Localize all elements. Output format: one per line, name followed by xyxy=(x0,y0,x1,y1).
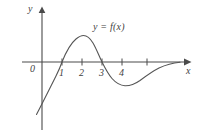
x-axis-label: x xyxy=(186,66,190,76)
x-tick-label-4: 4 xyxy=(119,68,124,78)
y-axis xyxy=(39,7,46,131)
function-graph-figure: y x 0 1 2 3 4 y = f(x) xyxy=(0,0,199,133)
origin-label: 0 xyxy=(30,64,35,74)
x-tick-label-2: 2 xyxy=(79,68,84,78)
x-axis xyxy=(22,59,192,66)
y-axis-label: y xyxy=(28,4,32,14)
y-axis-arrowhead xyxy=(39,7,46,14)
x-tick-label-1: 1 xyxy=(59,68,64,78)
x-tick-label-3: 3 xyxy=(99,68,104,78)
function-label: y = f(x) xyxy=(93,22,125,32)
